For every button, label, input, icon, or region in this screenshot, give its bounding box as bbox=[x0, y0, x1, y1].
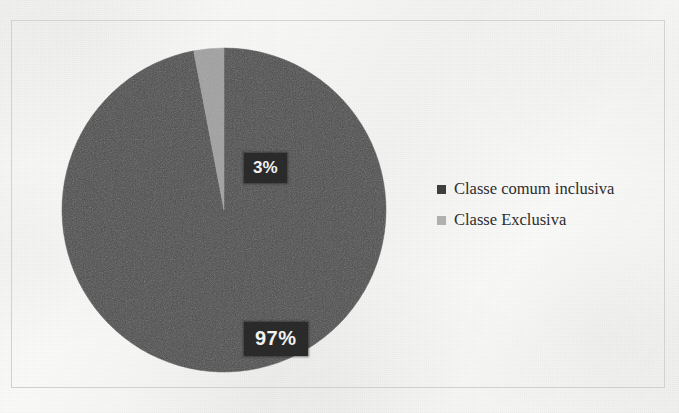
pie-chart-svg bbox=[59, 45, 389, 375]
legend-item-classe-exclusiva[interactable]: Classe Exclusiva bbox=[437, 211, 652, 229]
legend-swatch-icon-classe-exclusiva bbox=[437, 216, 446, 225]
pie-data-label-classe-comum-inclusiva: 97% bbox=[244, 322, 308, 356]
legend-swatch-icon-classe-comum-inclusiva bbox=[437, 185, 446, 194]
pie-data-label-classe-exclusiva: 3% bbox=[244, 153, 287, 183]
chart-page: 3% 97% Classe comum inclusiva Classe Exc… bbox=[0, 0, 679, 413]
legend-item-classe-comum-inclusiva[interactable]: Classe comum inclusiva bbox=[437, 180, 652, 198]
chart-legend: Classe comum inclusiva Classe Exclusiva bbox=[437, 180, 652, 242]
pie-chart: 3% 97% bbox=[59, 45, 389, 375]
legend-label-classe-exclusiva: Classe Exclusiva bbox=[454, 211, 566, 229]
legend-label-classe-comum-inclusiva: Classe comum inclusiva bbox=[454, 180, 614, 198]
